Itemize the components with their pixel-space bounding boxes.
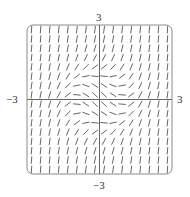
slope-segment bbox=[149, 156, 150, 163]
slope-segment bbox=[119, 121, 125, 126]
slope-segment bbox=[158, 156, 159, 163]
slope-segment bbox=[40, 35, 41, 42]
slope-segment bbox=[130, 129, 133, 136]
slope-segment bbox=[140, 147, 141, 154]
slope-segment bbox=[128, 93, 134, 98]
slope-segment bbox=[83, 129, 88, 134]
slope-segment bbox=[101, 111, 107, 115]
slope-segment bbox=[31, 54, 32, 61]
slope-segment bbox=[101, 92, 107, 97]
slope-segment bbox=[158, 26, 159, 33]
slope-segment bbox=[103, 156, 104, 163]
slope-segment bbox=[100, 122, 107, 123]
y-axis-top-label: 3 bbox=[96, 12, 102, 23]
slope-segment bbox=[148, 73, 150, 80]
slope-segment bbox=[31, 138, 32, 145]
slope-segment bbox=[31, 63, 32, 70]
slope-segment bbox=[158, 63, 159, 70]
slope-segment bbox=[94, 45, 96, 52]
slope-segment bbox=[31, 166, 32, 173]
slope-segment bbox=[94, 166, 95, 173]
slope-segment bbox=[65, 83, 70, 88]
slope-segment bbox=[167, 119, 168, 126]
slope-segment bbox=[57, 92, 61, 99]
slope-segment bbox=[40, 119, 41, 126]
slope-segment bbox=[75, 129, 79, 135]
slope-segment bbox=[139, 101, 143, 108]
slope-segment bbox=[112, 54, 115, 61]
slope-segment bbox=[91, 76, 98, 77]
slope-segment bbox=[167, 82, 168, 89]
slope-segment bbox=[66, 63, 69, 70]
x-axis-left-label: −3 bbox=[6, 94, 18, 105]
slope-segment bbox=[103, 147, 105, 154]
slope-segment bbox=[109, 76, 116, 77]
slope-segment bbox=[31, 26, 32, 33]
slope-segment bbox=[122, 35, 123, 42]
slope-segment bbox=[149, 54, 150, 61]
slope-segment bbox=[58, 45, 59, 52]
slope-segment bbox=[84, 54, 87, 61]
slope-segment bbox=[158, 54, 159, 61]
slope-segment bbox=[76, 147, 78, 154]
slope-segment bbox=[65, 93, 71, 98]
slope-segment bbox=[149, 166, 150, 173]
slope-segment bbox=[149, 128, 150, 135]
slope-segment bbox=[31, 147, 32, 154]
slope-segment bbox=[49, 101, 51, 108]
slope-segment bbox=[82, 122, 89, 123]
slope-segment bbox=[118, 85, 125, 86]
slope-segment bbox=[130, 45, 131, 52]
slope-segment bbox=[49, 138, 50, 145]
slope-segment bbox=[167, 63, 168, 70]
slope-segment bbox=[103, 45, 105, 52]
slope-segment bbox=[129, 83, 134, 88]
slope-segment bbox=[140, 35, 141, 42]
slope-segment bbox=[140, 26, 141, 33]
slope-segment bbox=[75, 64, 79, 70]
slope-segment bbox=[119, 74, 125, 79]
slope-segment bbox=[94, 26, 95, 33]
slope-segment bbox=[167, 166, 168, 173]
slope-segment bbox=[91, 122, 98, 123]
slope-segment bbox=[149, 45, 150, 52]
slope-segment bbox=[109, 122, 116, 123]
slope-segment bbox=[149, 63, 150, 70]
slope-segment bbox=[31, 128, 32, 135]
slope-segment bbox=[103, 35, 104, 42]
slope-segment bbox=[112, 147, 114, 154]
slope-segment bbox=[131, 26, 132, 33]
slope-segment bbox=[49, 119, 51, 126]
slope-segment bbox=[94, 147, 96, 154]
slope-segment bbox=[140, 54, 142, 61]
slope-segment bbox=[148, 82, 150, 89]
slope-segment bbox=[92, 83, 98, 87]
slope-segment bbox=[101, 65, 107, 70]
slope-segment bbox=[112, 138, 115, 145]
slope-segment bbox=[31, 82, 32, 89]
slope-segment bbox=[67, 138, 69, 145]
slope-segment bbox=[158, 100, 159, 107]
slope-segment bbox=[67, 54, 69, 61]
slope-segment bbox=[130, 147, 131, 154]
slope-segment bbox=[167, 45, 168, 52]
slope-segment bbox=[40, 26, 41, 33]
slope-segment bbox=[158, 35, 159, 42]
slope-segment bbox=[110, 93, 116, 97]
slope-segment bbox=[128, 102, 134, 107]
slope-segment bbox=[139, 119, 142, 126]
slope-segment bbox=[101, 83, 107, 87]
slope-segment bbox=[85, 35, 86, 42]
slope-segment bbox=[110, 64, 115, 69]
slope-segment bbox=[167, 54, 168, 61]
slope-segment bbox=[122, 156, 123, 163]
slope-segment bbox=[58, 54, 60, 61]
slope-segment bbox=[118, 95, 125, 96]
slope-segment bbox=[112, 156, 113, 163]
slope-segment bbox=[149, 147, 150, 154]
slope-segment bbox=[49, 45, 50, 52]
slope-segment bbox=[57, 119, 60, 126]
slope-segment bbox=[85, 156, 86, 163]
slope-segment bbox=[167, 73, 168, 80]
slope-segment bbox=[110, 112, 117, 115]
